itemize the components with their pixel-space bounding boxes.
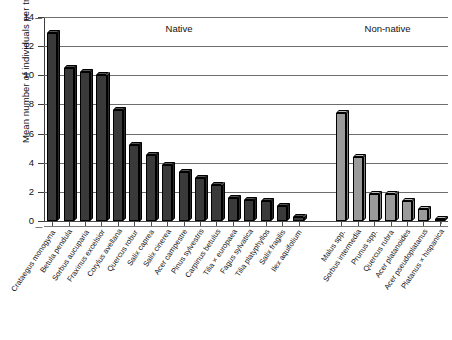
bar[interactable]	[353, 157, 363, 221]
bar-side-face	[156, 152, 159, 221]
bar-face	[353, 157, 363, 221]
x-tick-mark	[167, 222, 168, 226]
bar-side-face	[412, 198, 415, 221]
y-tick-label-2: 2	[10, 187, 34, 196]
bar[interactable]	[179, 172, 189, 221]
bar[interactable]	[402, 201, 412, 221]
bar-side-face	[428, 206, 431, 221]
bar[interactable]	[244, 200, 254, 221]
bar-face	[369, 194, 379, 221]
bar[interactable]	[47, 33, 57, 221]
bar-face	[418, 209, 428, 221]
y-tick-label-6: 6	[10, 129, 34, 138]
bar-face	[277, 206, 287, 221]
bar[interactable]	[435, 219, 445, 221]
bar-side-face	[396, 191, 399, 221]
bar[interactable]	[211, 185, 221, 221]
x-tick-mark	[299, 222, 300, 226]
group-label-nonnative: Non-native	[365, 23, 411, 34]
x-tick-mark	[391, 222, 392, 226]
x-tick-mark	[249, 222, 250, 226]
group-label-native: Native	[166, 23, 193, 34]
bar[interactable]	[113, 110, 123, 221]
x-tick-mark	[407, 222, 408, 226]
x-tick-mark	[341, 222, 342, 226]
x-tick-mark	[151, 222, 152, 226]
bar[interactable]	[277, 206, 287, 221]
y-tick-label-10: 10	[10, 70, 34, 79]
x-tick-mark	[423, 222, 424, 226]
chart-figure: Mean number of individuals per tree 0246…	[0, 0, 452, 340]
bars-layer	[44, 17, 448, 221]
bar-side-face	[254, 197, 257, 221]
y-tick-label-0: 0	[10, 216, 34, 225]
bar-face	[261, 201, 271, 221]
bar-side-face	[189, 169, 192, 221]
x-tick-mark	[374, 222, 375, 226]
bar-face	[435, 219, 445, 221]
bar-face	[162, 165, 172, 221]
bar-face	[47, 33, 57, 221]
bar[interactable]	[129, 145, 139, 222]
bar[interactable]	[195, 178, 205, 221]
bar-side-face	[205, 175, 208, 221]
bar-face	[385, 194, 395, 221]
x-tick-mark	[233, 222, 234, 226]
x-tick-mark	[184, 222, 185, 226]
bar-face	[64, 68, 74, 221]
bar-face	[293, 217, 303, 221]
bar-side-face	[287, 203, 290, 221]
bar[interactable]	[385, 194, 395, 221]
bar-side-face	[222, 182, 225, 221]
x-tick-mark	[200, 222, 201, 226]
y-tick-label-4: 4	[10, 158, 34, 167]
bar[interactable]	[293, 217, 303, 221]
bar-face	[402, 201, 412, 221]
bar-side-face	[238, 195, 241, 221]
y-tick-label-8: 8	[10, 99, 34, 108]
bar-side-face	[346, 110, 349, 221]
bar-side-face	[57, 30, 60, 221]
bar[interactable]	[80, 72, 90, 221]
bar[interactable]	[64, 68, 74, 221]
bar-side-face	[172, 162, 175, 221]
bar-face	[244, 200, 254, 221]
bar[interactable]	[96, 75, 106, 221]
bar-side-face	[90, 69, 93, 221]
bar-side-face	[139, 142, 142, 222]
bar-side-face	[363, 154, 366, 221]
bar-side-face	[107, 72, 110, 221]
bar-side-face	[123, 107, 126, 221]
x-tick-mark	[216, 222, 217, 226]
bar-face	[80, 72, 90, 221]
bar-face	[129, 145, 139, 222]
bar[interactable]	[228, 198, 238, 221]
bar-face	[113, 110, 123, 221]
y-tick-label-14: 14	[10, 12, 34, 21]
x-tick-mark	[266, 222, 267, 226]
x-axis-labels: Crataegus monogynaBetula pendulaSorbus a…	[0, 228, 452, 340]
bar-side-face	[271, 198, 274, 221]
bar[interactable]	[369, 194, 379, 221]
x-tick-mark	[358, 222, 359, 226]
bar-side-face	[379, 191, 382, 221]
bar[interactable]	[336, 113, 346, 221]
bar-face	[228, 198, 238, 221]
bar-face	[96, 75, 106, 221]
bar-face	[211, 185, 221, 221]
x-tick-mark	[282, 222, 283, 226]
bar[interactable]	[146, 155, 156, 221]
x-tick-mark	[101, 222, 102, 226]
x-tick-mark	[134, 222, 135, 226]
x-tick-mark	[440, 222, 441, 226]
x-tick-mark	[118, 222, 119, 226]
y-tick-label-12: 12	[10, 41, 34, 50]
bar[interactable]	[162, 165, 172, 221]
bar[interactable]	[261, 201, 271, 221]
bar-face	[179, 172, 189, 221]
bar-face	[195, 178, 205, 221]
bar-side-face	[74, 65, 77, 221]
bar[interactable]	[418, 209, 428, 221]
plot-area	[44, 17, 448, 221]
x-tick-mark	[69, 222, 70, 226]
